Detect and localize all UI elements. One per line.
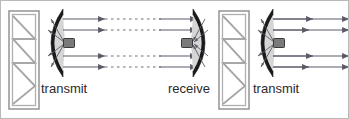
dish-transmit-right-feed-horn — [274, 39, 285, 48]
dish-receive-feed-horn — [182, 39, 193, 48]
tower-right — [219, 11, 249, 109]
label-transmit-left: transmit — [41, 81, 88, 96]
label-receive: receive — [168, 81, 210, 96]
dish-transmit-left-feed-horn — [64, 39, 75, 48]
microwave-relay-diagram: transmit receive transmit — [0, 0, 349, 119]
beam-left-dashed-midsection — [105, 19, 161, 67]
tower-left — [9, 11, 39, 109]
diagram-canvas: transmit receive transmit — [1, 1, 349, 119]
label-transmit-right: transmit — [253, 81, 300, 96]
beam-left-to-receive — [63, 19, 197, 67]
